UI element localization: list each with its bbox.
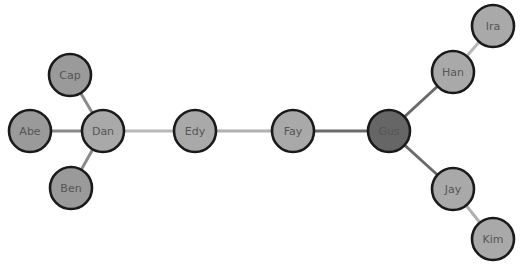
node-gus[interactable]: Gus [368,110,410,152]
node-dan[interactable]: Dan [82,110,124,152]
node-label: Abe [19,125,41,138]
node-jay[interactable]: Jay [432,168,474,210]
node-label: Dan [92,125,114,138]
node-cap[interactable]: Cap [49,54,91,96]
node-label: Cap [59,69,80,82]
node-label: Ira [486,20,501,33]
node-label: Jay [444,183,462,196]
node-label: Ben [60,182,81,195]
node-fay[interactable]: Fay [272,110,314,152]
network-graph: AbeCapBenDanEdyFayGusHanIraJayKim [0,0,524,266]
node-label: Han [442,66,464,79]
node-abe[interactable]: Abe [9,110,51,152]
node-kim[interactable]: Kim [472,218,514,260]
node-edy[interactable]: Edy [174,110,216,152]
node-label: Fay [284,125,303,138]
node-label: Kim [483,233,504,246]
node-han[interactable]: Han [432,51,474,93]
node-ben[interactable]: Ben [50,167,92,209]
node-ira[interactable]: Ira [472,5,514,47]
node-label: Gus [378,125,399,138]
node-label: Edy [185,125,206,138]
